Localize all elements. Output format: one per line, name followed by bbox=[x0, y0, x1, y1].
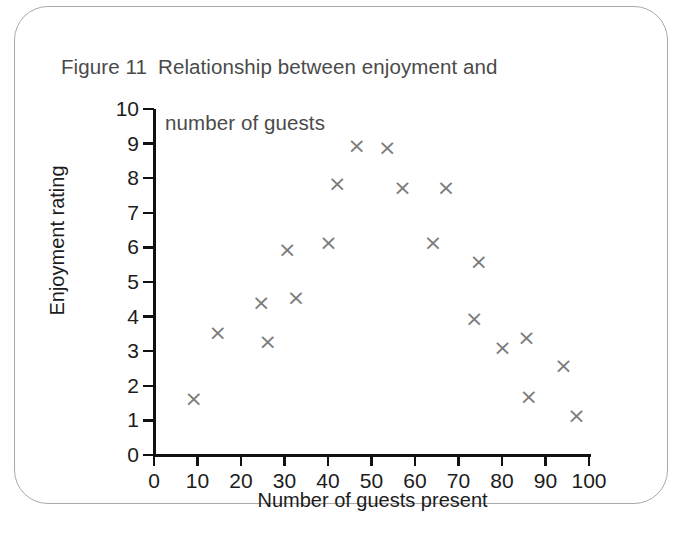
y-tick-2 bbox=[143, 385, 154, 387]
y-tick-label-2: 2 bbox=[127, 373, 139, 397]
figure-card: Figure 11Relationship between enjoyment … bbox=[14, 6, 668, 504]
y-tick-label-4: 4 bbox=[127, 304, 139, 328]
x-axis-title: Number of guests present bbox=[154, 489, 591, 512]
x-tick-80 bbox=[501, 455, 503, 466]
y-tick-label-5: 5 bbox=[127, 270, 139, 294]
y-tick-1 bbox=[143, 419, 154, 421]
x-tick-40 bbox=[327, 455, 329, 466]
y-tick-label-8: 8 bbox=[127, 166, 139, 190]
y-tick-3 bbox=[143, 350, 154, 352]
y-axis-title: Enjoyment rating bbox=[46, 111, 69, 371]
y-tick-label-9: 9 bbox=[127, 131, 139, 155]
y-tick-label-1: 1 bbox=[127, 408, 139, 432]
x-tick-50 bbox=[370, 455, 372, 466]
y-tick-label-7: 7 bbox=[127, 200, 139, 224]
y-tick-4 bbox=[143, 315, 154, 317]
y-tick-9 bbox=[143, 142, 154, 144]
x-tick-20 bbox=[240, 455, 242, 466]
y-tick-label-10: 10 bbox=[116, 97, 139, 121]
y-tick-7 bbox=[143, 212, 154, 214]
y-tick-label-6: 6 bbox=[127, 235, 139, 259]
x-tick-70 bbox=[457, 455, 459, 466]
x-tick-60 bbox=[414, 455, 416, 466]
y-tick-10 bbox=[143, 108, 154, 110]
figure-label: Figure 11 bbox=[61, 55, 147, 78]
y-tick-5 bbox=[143, 281, 154, 283]
y-tick-8 bbox=[143, 177, 154, 179]
figure-title-line1: Relationship between enjoyment and bbox=[158, 55, 498, 78]
y-tick-label-3: 3 bbox=[127, 339, 139, 363]
x-tick-30 bbox=[283, 455, 285, 466]
x-tick-0 bbox=[153, 455, 155, 466]
y-tick-6 bbox=[143, 246, 154, 248]
y-tick-label-0: 0 bbox=[127, 443, 139, 467]
plot-area: 012345678910 0102030405060708090100 bbox=[154, 109, 589, 455]
x-tick-10 bbox=[196, 455, 198, 466]
x-tick-100 bbox=[588, 455, 590, 466]
x-tick-90 bbox=[544, 455, 546, 466]
